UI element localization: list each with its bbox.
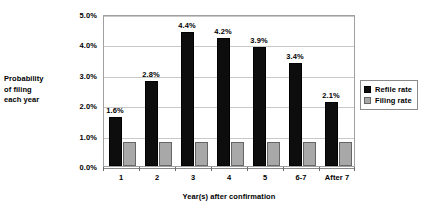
bar-refile-rate bbox=[181, 32, 194, 166]
x-axis-tick-mark bbox=[247, 167, 248, 171]
bar-filing-rate bbox=[303, 142, 316, 166]
x-axis-tick-label: After 7 bbox=[325, 173, 349, 182]
bars-layer: 1.6%2.8%4.4%4.2%3.9%3.4%2.1% bbox=[104, 16, 354, 166]
x-axis-tick-label: 2 bbox=[155, 173, 159, 182]
y-axis-title-line-3: each year bbox=[4, 95, 66, 106]
bar-filing-rate bbox=[339, 142, 352, 166]
bar-refile-rate bbox=[325, 102, 338, 166]
y-axis-title: Probability of filing each year bbox=[4, 74, 66, 106]
x-axis-tick-mark bbox=[103, 167, 104, 171]
bar-filing-rate bbox=[195, 142, 208, 166]
x-axis-tick-mark bbox=[175, 167, 176, 171]
y-axis-tick-label: 3.0% bbox=[80, 71, 97, 80]
x-axis-tick-mark bbox=[211, 167, 212, 171]
bar-chart: Probability of filing each year 0.0%1.0%… bbox=[0, 0, 445, 213]
x-axis-tick-label: 1 bbox=[119, 173, 123, 182]
bar-refile-rate bbox=[109, 117, 122, 166]
x-axis-tick-mark bbox=[354, 167, 355, 171]
y-axis-tick-label: 1.0% bbox=[80, 132, 97, 141]
legend-item-filing-rate: Filing rate bbox=[364, 95, 412, 106]
gray-square-swatch-icon bbox=[364, 97, 371, 104]
bar-filing-rate bbox=[267, 142, 280, 166]
x-axis-tick-mark bbox=[319, 167, 320, 171]
x-axis-tick-labels: 123456-7After 7 bbox=[103, 173, 355, 187]
bar-value-label: 3.9% bbox=[245, 36, 273, 45]
x-axis-tick-label: 3 bbox=[191, 173, 195, 182]
x-axis-tick-mark bbox=[283, 167, 284, 171]
bar-value-label: 2.8% bbox=[137, 70, 165, 79]
x-axis-tick-label: 5 bbox=[263, 173, 267, 182]
bar-filing-rate bbox=[123, 142, 136, 166]
bar-refile-rate bbox=[145, 81, 158, 166]
y-axis-title-line-1: Probability bbox=[4, 74, 66, 85]
legend-item-refile-rate: Refile rate bbox=[364, 84, 412, 95]
bar-value-label: 4.4% bbox=[173, 21, 201, 30]
y-axis-tick-label: 4.0% bbox=[80, 41, 97, 50]
black-square-swatch-icon bbox=[364, 86, 371, 93]
legend-label-filing-rate: Filing rate bbox=[375, 96, 412, 105]
bar-value-label: 2.1% bbox=[317, 91, 345, 100]
bar-value-label: 4.2% bbox=[209, 27, 237, 36]
legend-label-refile-rate: Refile rate bbox=[375, 85, 412, 94]
y-axis-tick-label: 0.0% bbox=[80, 163, 97, 172]
y-axis-tick-label: 2.0% bbox=[80, 102, 97, 111]
x-axis-tick-label: 6-7 bbox=[295, 173, 306, 182]
plot-area: 1.6%2.8%4.4%4.2%3.9%3.4%2.1% bbox=[103, 15, 355, 167]
bar-refile-rate bbox=[217, 38, 230, 166]
legend: Refile rate Filing rate bbox=[360, 80, 418, 110]
bar-filing-rate bbox=[231, 142, 244, 166]
bar-filing-rate bbox=[159, 142, 172, 166]
x-axis-title: Year(s) after confirmation bbox=[103, 192, 355, 201]
y-axis-title-line-2: of filing bbox=[4, 85, 66, 96]
y-axis-tick-label: 5.0% bbox=[80, 11, 97, 20]
x-axis-tick-mark bbox=[139, 167, 140, 171]
bar-value-label: 1.6% bbox=[101, 106, 129, 115]
bar-value-label: 3.4% bbox=[281, 52, 309, 61]
y-axis-tick-labels: 0.0%1.0%2.0%3.0%4.0%5.0% bbox=[60, 0, 100, 213]
bar-refile-rate bbox=[253, 47, 266, 166]
x-axis-tick-label: 4 bbox=[227, 173, 231, 182]
bar-refile-rate bbox=[289, 63, 302, 166]
